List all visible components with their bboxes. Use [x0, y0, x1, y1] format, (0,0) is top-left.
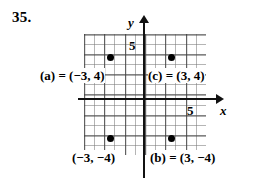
- y-axis-label: y: [128, 16, 134, 29]
- point-label-c: (c) = (3, 4): [148, 68, 205, 83]
- data-point-a: [107, 54, 114, 61]
- y-axis-line: [143, 20, 145, 178]
- data-point-d: [107, 135, 114, 142]
- arrow-up-icon: [139, 15, 149, 23]
- data-point-c: [168, 54, 175, 61]
- y-axis-tick-label-5: 5: [129, 39, 136, 52]
- coordinate-plane: y x 5 5: [84, 34, 206, 155]
- problem-number: 35.: [12, 10, 31, 25]
- x-axis-label: x: [220, 104, 227, 117]
- x-axis-line: [78, 98, 218, 100]
- point-label-d: (−3, −4): [72, 150, 115, 165]
- data-point-b: [168, 135, 175, 142]
- major-gridlines: [84, 34, 206, 155]
- x-axis-tick-label-5: 5: [187, 104, 194, 117]
- point-label-b: (b) = (3, −4): [150, 150, 215, 165]
- point-label-a: (a) = (−3, 4): [40, 68, 105, 83]
- figure-canvas: 35. y x 5 5 (a) = (−3, 4) (c) = (3, 4) (…: [0, 0, 256, 178]
